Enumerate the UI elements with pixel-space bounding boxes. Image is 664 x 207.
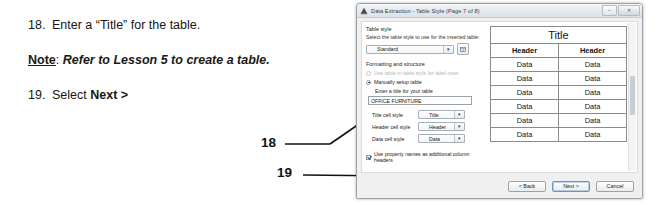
instruction-step-18: 18.Enter a “Title” for the table. — [28, 18, 333, 33]
preview-data-row: Data Data — [491, 114, 627, 128]
instruction-step-19: 19.Select Next > — [28, 88, 333, 103]
data-cell-style-label: Data cell style — [372, 136, 418, 142]
vertical-scrollbar[interactable] — [628, 23, 636, 171]
preview-title-row: Title — [491, 27, 627, 44]
preview-data-cell: Data — [491, 58, 559, 72]
table-style-group-label: Table style — [366, 26, 484, 32]
minimize-button[interactable]: – — [602, 5, 617, 16]
checkbox-icon-use-property-names — [366, 155, 371, 160]
dialog-body: Table style Select the table style to us… — [357, 18, 642, 199]
preview-data-cell: Data — [491, 114, 559, 128]
data-extraction-dialog: Data Extraction - Table Style (Page 7 of… — [356, 3, 643, 199]
chevron-down-icon[interactable]: ▾ — [454, 135, 464, 142]
instructions-block: 18.Enter a “Title” for the table. Note: … — [28, 18, 333, 123]
preview-header-row: Header Header — [491, 44, 627, 58]
preview-data-cell: Data — [491, 86, 559, 100]
next-button[interactable]: Next > — [552, 181, 590, 192]
preview-data-cell: Data — [491, 100, 559, 114]
use-property-names-checkbox-row[interactable]: Use property names as additional column … — [366, 151, 484, 163]
preview-header-cell: Header — [559, 44, 627, 58]
table-preview: Title Header Header Data Data Data Data — [490, 26, 627, 168]
cancel-button[interactable]: Cancel — [596, 181, 634, 192]
step-19-prefix: Select — [52, 88, 90, 102]
preview-data-row: Data Data — [491, 86, 627, 100]
dialog-titlebar[interactable]: Data Extraction - Table Style (Page 7 of… — [357, 4, 642, 18]
callout-number-18: 18 — [261, 135, 276, 150]
dialog-content-pane: Table style Select the table style to us… — [361, 21, 638, 173]
preview-data-row: Data Data — [491, 58, 627, 72]
preview-data-cell: Data — [491, 128, 559, 142]
preview-data-cell: Data — [559, 114, 627, 128]
data-cell-style-row: Data cell style Data ▾ — [372, 134, 484, 143]
step-19-number: 19. — [28, 88, 52, 103]
table-style-editor-icon[interactable] — [457, 43, 469, 55]
data-cell-style-value: Data — [419, 136, 440, 142]
preview-title-cell: Title — [491, 27, 627, 44]
preview-data-row: Data Data — [491, 72, 627, 86]
preview-data-cell: Data — [559, 58, 627, 72]
header-cell-style-row: Header cell style Header ▾ — [372, 122, 484, 131]
preview-data-row: Data Data — [491, 100, 627, 114]
radio-manual-setup[interactable]: Manually setup table — [366, 79, 484, 85]
pencil-table-icon — [460, 46, 467, 53]
application-icon — [360, 7, 368, 15]
scrollbar-thumb[interactable] — [630, 76, 635, 114]
note-colon: : — [56, 53, 59, 67]
table-style-row: Standard ▾ — [366, 43, 484, 55]
title-cell-style-value: Title — [419, 112, 439, 118]
preview-data-cell: Data — [491, 72, 559, 86]
step-18-number: 18. — [28, 18, 52, 33]
note-text: Refer to Lesson 5 to create a table. — [63, 53, 270, 67]
table-title-input[interactable]: OFFICE FURNITURE — [368, 96, 472, 105]
step-18-text: Enter a “Title” for the table. — [52, 18, 200, 32]
window-controls: – ✕ — [602, 5, 640, 16]
dialog-button-bar: < Back Next > Cancel — [357, 173, 642, 199]
title-cell-style-label: Title cell style — [372, 112, 418, 118]
radio-use-table-style: Use table in table style for label rows — [366, 70, 484, 76]
title-prompt-label: Enter a title for your table — [375, 88, 484, 94]
header-cell-style-label: Header cell style — [372, 124, 418, 130]
table-style-form: Table style Select the table style to us… — [366, 26, 484, 163]
close-button[interactable]: ✕ — [618, 5, 640, 16]
step-19-bold: Next > — [90, 88, 128, 102]
preview-header-cell: Header — [491, 44, 559, 58]
preview-table: Title Header Header Data Data Data Data — [490, 26, 627, 142]
radio-label-use-table-style: Use table in table style for label rows — [374, 70, 458, 76]
preview-data-row: Data Data — [491, 128, 627, 142]
title-cell-style-dropdown[interactable]: Title ▾ — [418, 110, 465, 119]
preview-data-cell: Data — [559, 100, 627, 114]
formatting-section-label: Formatting and structure — [366, 61, 484, 67]
radio-label-manual-setup: Manually setup table — [374, 79, 422, 85]
table-style-value: Standard — [367, 46, 398, 52]
radio-icon-manual-setup — [366, 80, 371, 85]
callout-number-19: 19 — [277, 165, 292, 180]
title-cell-style-row: Title cell style Title ▾ — [372, 110, 484, 119]
back-button[interactable]: < Back — [508, 181, 546, 192]
chevron-down-icon[interactable]: ▾ — [454, 123, 464, 130]
table-style-dropdown[interactable]: Standard ▾ — [366, 45, 454, 54]
preview-data-cell: Data — [559, 72, 627, 86]
chevron-down-icon[interactable]: ▾ — [454, 111, 464, 118]
preview-data-cell: Data — [559, 128, 627, 142]
use-property-names-label: Use property names as additional column … — [374, 151, 484, 163]
note-label: Note — [28, 53, 56, 67]
chevron-down-icon[interactable]: ▾ — [443, 46, 453, 53]
table-style-description: Select the table style to use for the in… — [366, 34, 484, 40]
header-cell-style-value: Header — [419, 124, 446, 130]
preview-data-cell: Data — [559, 86, 627, 100]
instruction-note: Note: Refer to Lesson 5 to create a tabl… — [28, 53, 333, 68]
header-cell-style-dropdown[interactable]: Header ▾ — [418, 122, 465, 131]
radio-icon-use-table-style — [366, 71, 371, 76]
dialog-title: Data Extraction - Table Style (Page 7 of… — [371, 8, 602, 14]
data-cell-style-dropdown[interactable]: Data ▾ — [418, 134, 465, 143]
